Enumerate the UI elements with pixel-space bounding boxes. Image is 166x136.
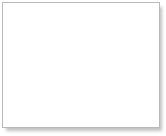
figure-frame-border (2, 2, 160, 128)
chart-figure: 190 195 200 205 210 215 220 225 230 0 1 … (0, 0, 166, 136)
